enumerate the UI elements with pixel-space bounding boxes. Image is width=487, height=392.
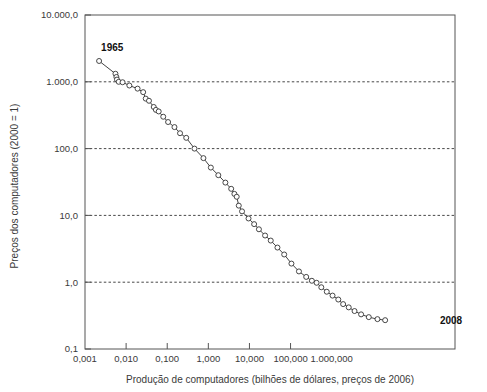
data-point-marker	[223, 180, 228, 185]
y-tick-label: 10,0	[60, 210, 79, 221]
data-point-marker	[319, 285, 324, 290]
data-point-marker	[127, 83, 132, 88]
data-point-marker	[97, 58, 102, 63]
data-point-marker	[289, 261, 294, 266]
x-tick-label: 0,100	[155, 353, 179, 364]
data-point-marker	[135, 86, 140, 91]
data-point-marker	[275, 245, 280, 250]
data-point-marker	[324, 289, 329, 294]
y-axis-title: Preços dos computadores (2000 = 1)	[9, 104, 20, 269]
data-point-marker	[234, 194, 239, 199]
data-point-marker	[268, 238, 273, 243]
data-point-marker	[330, 293, 335, 298]
data-point-marker	[383, 318, 388, 323]
y-tick-label: 0,1	[65, 343, 78, 354]
data-point-marker	[375, 317, 380, 322]
y-tick-label: 10.000,0	[41, 9, 78, 20]
x-tick-label: 100,000	[273, 353, 307, 364]
data-point-marker	[240, 209, 245, 214]
data-point-marker	[296, 269, 301, 274]
data-point-marker	[236, 203, 241, 208]
data-point-marker	[229, 186, 234, 191]
chart-canvas: 0,0010,0100,1001,00010,000100,0001.000,0…	[0, 0, 487, 392]
x-tick-label: 1,000	[196, 353, 220, 364]
y-axis-tick-labels: 10.000,01.000,0100,010,01,00,1	[41, 9, 78, 354]
x-axis-tick-labels: 0,0010,0100,1001,00010,000100,0001.000,0…	[73, 353, 353, 364]
axes-border	[85, 15, 455, 349]
data-point-marker	[341, 302, 346, 307]
data-point-marker	[246, 216, 251, 221]
x-axis-title: Produção de computadores (bilhões de dól…	[126, 374, 414, 385]
data-point-marker	[120, 80, 125, 85]
data-point-marker	[256, 227, 261, 232]
data-point-marker	[263, 233, 268, 238]
data-point-marker	[161, 114, 166, 119]
data-point-marker	[366, 315, 371, 320]
data-point-marker	[166, 120, 171, 125]
data-point-marker	[146, 98, 151, 103]
y-tick-label: 1,0	[65, 277, 78, 288]
series-line	[99, 61, 385, 320]
x-tick-label: 0,010	[114, 353, 138, 364]
annotation-label-1965: 1965	[101, 42, 124, 53]
data-point-marker	[172, 125, 177, 130]
annotation-label-2008: 2008	[440, 315, 463, 326]
data-point-marker	[346, 305, 351, 310]
y-tick-label: 100,0	[54, 143, 78, 154]
annotations: 19652008	[101, 42, 463, 326]
data-point-marker	[309, 278, 314, 283]
y-tick-label: 1.000,0	[46, 76, 78, 87]
data-point-marker	[192, 146, 197, 151]
data-point-marker	[216, 173, 221, 178]
data-series-markers	[97, 58, 388, 322]
x-tick-label: 1.000,000	[311, 353, 353, 364]
x-tick-label: 10,000	[235, 353, 264, 364]
data-point-marker	[314, 280, 319, 285]
data-point-marker	[304, 274, 309, 279]
data-series-line	[99, 61, 385, 320]
data-point-marker	[184, 135, 189, 140]
data-point-marker	[201, 156, 206, 161]
grid-lines	[85, 82, 455, 282]
x-tick-label: 0,001	[73, 353, 97, 364]
data-point-marker	[336, 297, 341, 302]
chart-figure: 0,0010,0100,1001,00010,000100,0001.000,0…	[0, 0, 487, 392]
data-point-marker	[208, 165, 213, 170]
data-point-marker	[282, 252, 287, 257]
data-point-marker	[359, 312, 364, 317]
data-point-marker	[178, 131, 183, 136]
data-point-marker	[156, 109, 161, 114]
data-point-marker	[252, 222, 257, 227]
y-axis-ticks	[85, 15, 91, 349]
x-axis-ticks	[126, 343, 290, 349]
data-point-marker	[141, 90, 146, 95]
data-point-marker	[352, 309, 357, 314]
plot-frame	[85, 15, 455, 349]
